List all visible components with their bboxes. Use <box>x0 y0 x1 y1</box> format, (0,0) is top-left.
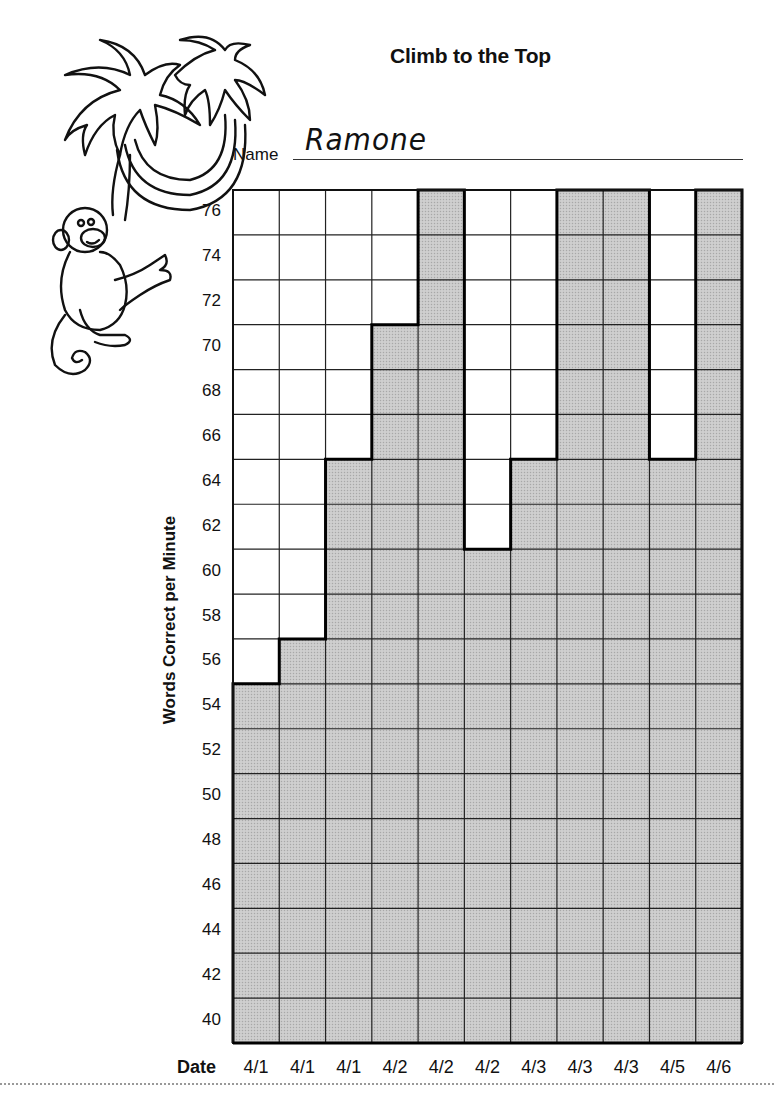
y-tick-label: 50 <box>185 785 221 805</box>
page-title: Climb to the Top <box>390 44 551 68</box>
x-tick-label: 4/2 <box>372 1057 418 1078</box>
bar-7 <box>557 190 603 1043</box>
bar-5 <box>464 549 510 1043</box>
chart-grid <box>233 190 742 1043</box>
y-tick-label: 48 <box>185 830 221 850</box>
y-tick-label: 70 <box>185 336 221 356</box>
y-tick-label: 64 <box>185 471 221 491</box>
x-tick-label: 4/2 <box>418 1057 464 1078</box>
x-tick-label: 4/1 <box>233 1057 279 1078</box>
bar-9 <box>649 459 695 1043</box>
y-tick-label: 74 <box>185 246 221 266</box>
x-tick-label: 4/3 <box>511 1057 557 1078</box>
dotted-divider <box>0 1083 774 1085</box>
y-tick-label: 56 <box>185 650 221 670</box>
name-underline <box>293 159 743 160</box>
y-axis-label: Words Correct per Minute <box>160 516 180 724</box>
y-tick-label: 62 <box>185 516 221 536</box>
bar-2 <box>326 459 372 1043</box>
y-tick-label: 46 <box>185 875 221 895</box>
x-tick-label: 4/3 <box>557 1057 603 1078</box>
name-value: Ramone <box>305 123 427 158</box>
y-tick-label: 76 <box>185 201 221 221</box>
bar-4 <box>418 190 464 1043</box>
y-tick-label: 44 <box>185 920 221 940</box>
y-tick-label: 68 <box>185 381 221 401</box>
y-tick-label: 60 <box>185 561 221 581</box>
x-tick-label: 4/5 <box>650 1057 696 1078</box>
bar-8 <box>603 190 649 1043</box>
x-tick-label: 4/1 <box>326 1057 372 1078</box>
y-tick-label: 42 <box>185 965 221 985</box>
bar-10 <box>696 190 742 1043</box>
x-tick-label: 4/1 <box>279 1057 325 1078</box>
y-tick-label: 66 <box>185 426 221 446</box>
name-label: Name <box>233 145 278 165</box>
y-tick-label: 40 <box>185 1010 221 1030</box>
step-bar-chart <box>233 190 742 1043</box>
bar-1 <box>279 639 325 1043</box>
y-tick-label: 58 <box>185 606 221 626</box>
x-tick-label: 4/2 <box>465 1057 511 1078</box>
y-tick-label: 54 <box>185 695 221 715</box>
x-axis-label: Date <box>177 1057 216 1078</box>
x-tick-label: 4/3 <box>603 1057 649 1078</box>
y-tick-label: 72 <box>185 291 221 311</box>
bar-6 <box>511 459 557 1043</box>
x-tick-label: 4/6 <box>696 1057 742 1078</box>
y-tick-label: 52 <box>185 740 221 760</box>
